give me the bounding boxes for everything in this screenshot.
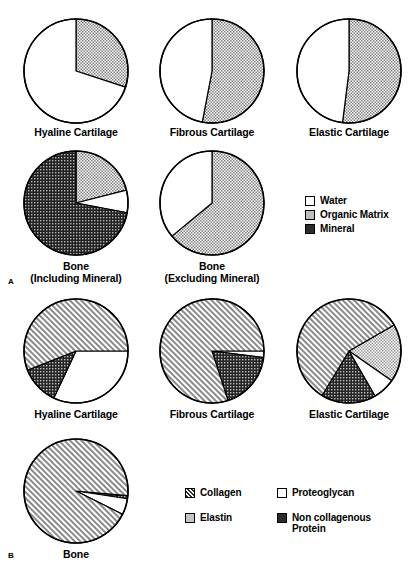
legend-panel-a: WaterOrganic MatrixMineral — [305, 195, 389, 237]
chart-label: Bone (Including Mineral) — [16, 260, 136, 284]
pie-svg — [16, 436, 136, 548]
legend-swatch-icon — [305, 196, 315, 206]
pie-slice — [160, 19, 212, 122]
legend-item-label: Mineral — [320, 223, 354, 234]
pie-fibrous-cartilage-composition — [152, 16, 272, 126]
legend-swatch-icon — [185, 513, 195, 523]
legend-swatch-icon — [277, 488, 287, 498]
chart-label: Hyaline Cartilage — [16, 408, 136, 420]
chart-cell-hyaline-cartilage-composition: Hyaline Cartilage — [16, 16, 136, 138]
chart-label: Elastic Cartilage — [289, 408, 409, 420]
chart-cell-bone-matrix: Bone — [16, 436, 136, 560]
pie-svg — [152, 16, 272, 126]
pie-slice — [297, 19, 349, 123]
legend-item: Elastin — [185, 512, 277, 523]
pie-bone-excluding-mineral — [152, 148, 272, 260]
chart-cell-elastic-cartilage-composition: Elastic Cartilage — [289, 16, 409, 138]
chart-label: Fibrous Cartilage — [152, 126, 272, 138]
chart-cell-fibrous-cartilage-matrix: Fibrous Cartilage — [152, 296, 272, 420]
pie-svg — [152, 296, 272, 408]
legend-item-label: Organic Matrix — [320, 209, 389, 220]
legend-panel-b: CollagenElastinProteoglycanNon collageno… — [185, 487, 371, 548]
legend-column-right: ProteoglycanNon collagenous Protein — [277, 487, 371, 548]
chart-cell-fibrous-cartilage-composition: Fibrous Cartilage — [152, 16, 272, 138]
legend-item: Collagen — [185, 487, 277, 498]
chart-label: Hyaline Cartilage — [16, 126, 136, 138]
pie-bone-matrix — [16, 436, 136, 548]
pie-fibrous-cartilage-matrix — [152, 296, 272, 408]
pie-bone-including-mineral — [16, 148, 136, 260]
legend-swatch-icon — [185, 488, 195, 498]
pie-svg — [16, 148, 136, 260]
pie-hyaline-cartilage-matrix — [16, 296, 136, 408]
chart-label: Elastic Cartilage — [289, 126, 409, 138]
legend-item: Proteoglycan — [277, 487, 371, 498]
chart-cell-elastic-cartilage-matrix: Elastic Cartilage — [289, 296, 409, 420]
panel-letter-b: B — [8, 551, 14, 560]
legend-item: Organic Matrix — [305, 209, 389, 220]
chart-cell-bone-including-mineral: Bone (Including Mineral) — [16, 148, 136, 284]
chart-label: Bone — [16, 548, 136, 560]
pie-svg — [152, 148, 272, 260]
pie-svg — [289, 296, 409, 408]
legend-swatch-icon — [305, 224, 315, 234]
legend-item: Mineral — [305, 223, 389, 234]
legend-swatch-icon — [277, 513, 287, 523]
legend-item-label: Elastin — [200, 512, 232, 523]
legend-item-label: Water — [320, 195, 347, 206]
legend-item-label: Collagen — [200, 487, 241, 498]
figure-root: Hyaline Cartilage Fibrous Cartilage Elas… — [0, 0, 414, 567]
pie-slice — [342, 19, 401, 123]
chart-label: Bone (Excluding Mineral) — [152, 260, 272, 284]
panel-letter-a: A — [8, 277, 14, 286]
legend-item: Water — [305, 195, 389, 206]
legend-swatch-icon — [305, 210, 315, 220]
chart-cell-hyaline-cartilage-matrix: Hyaline Cartilage — [16, 296, 136, 420]
pie-elastic-cartilage-matrix — [289, 296, 409, 408]
chart-cell-bone-excluding-mineral: Bone (Excluding Mineral) — [152, 148, 272, 284]
pie-elastic-cartilage-composition — [289, 16, 409, 126]
legend-item: Non collagenous Protein — [277, 512, 371, 534]
legend-column-left: CollagenElastin — [185, 487, 277, 548]
pie-hyaline-cartilage-composition — [16, 16, 136, 126]
pie-svg — [16, 296, 136, 408]
pie-svg — [16, 16, 136, 126]
chart-label: Fibrous Cartilage — [152, 408, 272, 420]
legend-item-label: Non collagenous Protein — [292, 512, 371, 534]
pie-svg — [289, 16, 409, 126]
legend-item-label: Proteoglycan — [292, 487, 354, 498]
